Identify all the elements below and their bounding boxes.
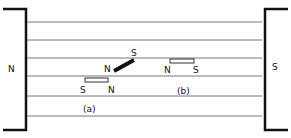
- bar-magnet-b: [170, 59, 194, 63]
- bar-b-s: S: [193, 65, 199, 75]
- compass-needle-a: [114, 60, 134, 71]
- bar-a-s: S: [80, 85, 86, 95]
- magnetic-field-diagram: N S N S S N (a) N S (b): [0, 0, 291, 138]
- left-pole-label: N: [8, 64, 15, 74]
- label-a: (a): [83, 104, 96, 114]
- bar-magnet-a: [85, 78, 108, 82]
- right-pole-label: S: [272, 62, 278, 72]
- bar-a-n: N: [108, 85, 115, 95]
- needle-a-s: S: [131, 48, 137, 58]
- bar-b-n: N: [164, 65, 171, 75]
- label-b: (b): [177, 86, 190, 96]
- needle-a-n: N: [104, 64, 111, 74]
- field-lines: [26, 22, 262, 116]
